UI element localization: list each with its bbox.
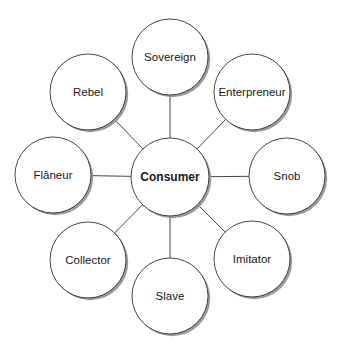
node-label: Snob <box>274 170 301 182</box>
center-node-consumer: Consumer <box>131 138 211 218</box>
node-label: Sovereign <box>144 51 196 63</box>
connector-enterpreneur <box>197 119 226 149</box>
node-snob: Snob <box>249 138 327 216</box>
node-collector: Collector <box>50 222 128 300</box>
node-enterpreneur: Enterpreneur <box>214 54 292 132</box>
node-label: Collector <box>65 254 111 266</box>
node-circles: SovereignEnterpreneurSnobImitatorSlaveCo… <box>15 19 327 336</box>
connector-imitator <box>198 205 226 233</box>
node-label: Flâneur <box>34 169 73 181</box>
node-label: Enterpreneur <box>218 86 285 98</box>
node-flaneur: Flâneur <box>15 137 93 215</box>
connector-collector <box>115 205 143 233</box>
node-label: Consumer <box>140 170 200 184</box>
node-label: Imitator <box>233 253 272 265</box>
connector-flaneur <box>91 176 131 177</box>
node-imitator: Imitator <box>214 221 292 299</box>
node-rebel: Rebel <box>50 54 128 132</box>
node-label: Slave <box>156 290 185 302</box>
node-slave: Slave <box>132 258 210 336</box>
node-sovereign: Sovereign <box>132 19 210 97</box>
connector-rebel <box>114 119 143 149</box>
consumer-types-diagram: SovereignEnterpreneurSnobImitatorSlaveCo… <box>0 0 340 356</box>
node-label: Rebel <box>73 86 103 98</box>
